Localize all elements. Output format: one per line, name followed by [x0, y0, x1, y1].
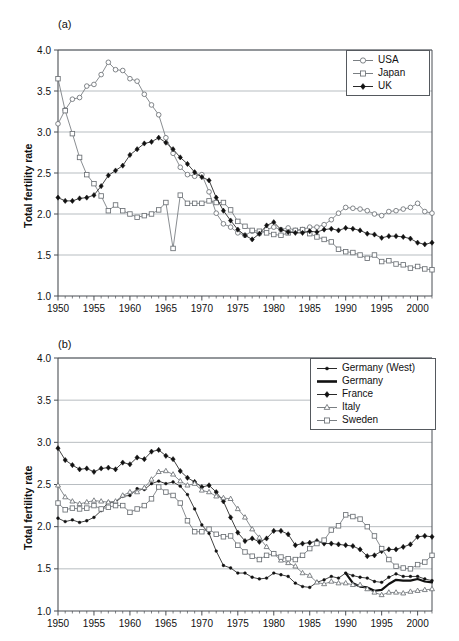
svg-text:1.5: 1.5 — [37, 250, 51, 261]
svg-text:1955: 1955 — [83, 303, 106, 314]
svg-text:1980: 1980 — [263, 618, 286, 629]
svg-text:4.0: 4.0 — [37, 45, 51, 56]
svg-text:1975: 1975 — [227, 618, 250, 629]
svg-text:1.0: 1.0 — [37, 606, 51, 617]
legend-label: Germany — [339, 374, 383, 387]
legend-label: UK — [375, 79, 392, 92]
svg-text:1955: 1955 — [83, 618, 106, 629]
svg-text:1970: 1970 — [191, 618, 214, 629]
legend-label: Italy — [339, 400, 360, 413]
svg-text:3.5: 3.5 — [37, 395, 51, 406]
open-square-legend-icon — [315, 413, 339, 426]
svg-text:2.0: 2.0 — [37, 521, 51, 532]
svg-text:1995: 1995 — [371, 303, 394, 314]
svg-text:1.0: 1.0 — [37, 291, 51, 302]
svg-text:3.0: 3.0 — [37, 127, 51, 138]
svg-text:1990: 1990 — [335, 618, 358, 629]
svg-text:2.5: 2.5 — [37, 168, 51, 179]
legend-label: Sweden — [339, 413, 378, 426]
svg-text:1980: 1980 — [263, 303, 286, 314]
svg-text:1960: 1960 — [119, 618, 142, 629]
open-triangle-legend-icon — [315, 400, 339, 413]
panel-a-svg: 1.01.52.02.53.03.54.01950195519601965197… — [0, 0, 459, 320]
svg-text:4.0: 4.0 — [37, 353, 51, 364]
svg-text:1950: 1950 — [47, 618, 70, 629]
legend-item-uk[interactable]: UK — [351, 79, 424, 92]
panel-a-legend[interactable]: USAJapanUK — [346, 50, 430, 96]
legend-label: Germany (West) — [339, 361, 415, 374]
small-filled-circle-legend-icon — [315, 361, 339, 374]
svg-text:2000: 2000 — [406, 303, 429, 314]
filled-diamond-legend-icon — [315, 387, 339, 400]
svg-text:1.5: 1.5 — [37, 563, 51, 574]
svg-text:3.5: 3.5 — [37, 86, 51, 97]
legend-label: Japan — [375, 66, 405, 79]
legend-label: France — [339, 387, 373, 400]
legend-label: USA — [375, 53, 399, 66]
svg-text:1970: 1970 — [191, 303, 214, 314]
svg-text:3.0: 3.0 — [37, 437, 51, 448]
legend-item-usa[interactable]: USA — [351, 53, 424, 66]
svg-text:2.0: 2.0 — [37, 209, 51, 220]
svg-text:1985: 1985 — [299, 303, 322, 314]
open-circle-legend-icon — [351, 53, 375, 66]
thick-line-legend-icon — [315, 374, 339, 387]
svg-text:1985: 1985 — [299, 618, 322, 629]
svg-text:1975: 1975 — [227, 303, 250, 314]
legend-item-italy[interactable]: Italy — [315, 400, 430, 413]
legend-item-germany[interactable]: Germany — [315, 374, 430, 387]
filled-diamond-legend-icon — [351, 79, 375, 92]
svg-text:1960: 1960 — [119, 303, 142, 314]
legend-item-germany-west[interactable]: Germany (West) — [315, 361, 430, 374]
svg-text:1995: 1995 — [371, 618, 394, 629]
legend-item-france[interactable]: France — [315, 387, 430, 400]
legend-item-sweden[interactable]: Sweden — [315, 413, 430, 426]
svg-text:1950: 1950 — [47, 303, 70, 314]
svg-text:1990: 1990 — [335, 303, 358, 314]
svg-text:1965: 1965 — [155, 303, 178, 314]
legend-item-japan[interactable]: Japan — [351, 66, 424, 79]
panel-b-legend[interactable]: Germany (West)GermanyFranceItalySweden — [310, 358, 436, 430]
chart-panel-b: (b) Total fertility rate 1.01.52.02.53.0… — [0, 320, 459, 641]
panel-a-plot: 1.01.52.02.53.03.54.01950195519601965197… — [0, 0, 459, 320]
svg-text:1965: 1965 — [155, 618, 178, 629]
svg-text:2000: 2000 — [406, 618, 429, 629]
open-square-legend-icon — [351, 66, 375, 79]
chart-panel-a: (a) Total fertility rate 1.01.52.02.53.0… — [0, 0, 459, 320]
svg-text:2.5: 2.5 — [37, 479, 51, 490]
figure-root: (a) Total fertility rate 1.01.52.02.53.0… — [0, 0, 459, 641]
